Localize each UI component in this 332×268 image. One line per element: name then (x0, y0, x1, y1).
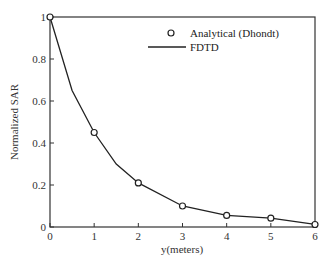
chart: 012345600.20.40.60.81 y(meters) Normaliz… (0, 0, 332, 268)
legend: Analytical (Dhondt) FDTD (148, 27, 279, 53)
legend-circle-icon (168, 30, 174, 36)
tick-labels: 012345600.20.40.60.81 (32, 11, 318, 242)
y-tick-label: 1 (41, 11, 47, 23)
legend-label-fdtd: FDTD (190, 41, 219, 53)
fdtd-series-line (50, 17, 315, 224)
y-tick-label: 0 (41, 221, 47, 233)
data-point-marker (312, 221, 318, 227)
data-point-marker (47, 14, 53, 20)
x-axis-label: y(meters) (161, 243, 203, 256)
y-tick-label: 0.2 (32, 179, 46, 191)
plot-frame (50, 17, 315, 227)
data-point-marker (91, 130, 97, 136)
x-tick-label: 0 (47, 230, 53, 242)
y-tick-label: 0.6 (32, 95, 46, 107)
y-tick-label: 0.8 (32, 53, 46, 65)
x-tick-label: 4 (224, 230, 230, 242)
axis-ticks (50, 17, 315, 227)
x-tick-label: 1 (91, 230, 97, 242)
y-axis-label: Normalized SAR (8, 83, 20, 160)
data-point-marker (180, 203, 186, 209)
legend-label-analytical: Analytical (Dhondt) (190, 27, 279, 40)
x-tick-label: 3 (180, 230, 186, 242)
x-tick-label: 5 (268, 230, 274, 242)
data-point-marker (268, 215, 274, 221)
data-point-marker (224, 212, 230, 218)
data-point-marker (135, 180, 141, 186)
x-tick-label: 6 (312, 230, 318, 242)
y-tick-label: 0.4 (32, 137, 46, 149)
x-tick-label: 2 (136, 230, 142, 242)
